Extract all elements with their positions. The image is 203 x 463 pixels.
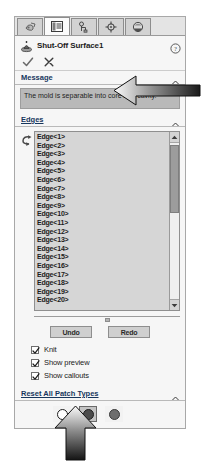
- dimxpert-icon: [105, 21, 117, 33]
- list-item[interactable]: Edge<18>: [37, 279, 169, 288]
- callout-arrow-left: [112, 73, 202, 107]
- list-item[interactable]: Edge<20>: [37, 296, 169, 305]
- page-title: Shut-Off Surface1: [37, 41, 170, 50]
- option-label: Knit: [44, 345, 57, 354]
- scroll-up-icon[interactable]: [170, 132, 179, 143]
- list-item[interactable]: Edge<14>: [37, 245, 169, 254]
- svg-text:?: ?: [174, 45, 177, 52]
- edges-scrollbar[interactable]: [169, 132, 179, 310]
- listbox-resize-grip[interactable]: [34, 316, 180, 323]
- edges-list[interactable]: Edge<1> Edge<2> Edge<3> Edge<4> Edge<5> …: [35, 132, 169, 310]
- list-item[interactable]: Edge<2>: [37, 142, 169, 151]
- list-item[interactable]: Edge<8>: [37, 193, 169, 202]
- patch-type-tangent[interactable]: [105, 406, 123, 422]
- circle-filled-gray-icon: [109, 409, 120, 420]
- checkbox-checked-icon[interactable]: [31, 359, 39, 367]
- tab-appearances[interactable]: [125, 18, 151, 35]
- undo-button[interactable]: Undo: [50, 326, 92, 338]
- list-item[interactable]: Edge<6>: [37, 176, 169, 185]
- edges-options: Knit Show preview Show callouts: [15, 342, 185, 387]
- list-item[interactable]: Edge<13>: [37, 236, 169, 245]
- list-icon: [51, 21, 63, 32]
- edge-select-icon-wrap: [19, 131, 34, 311]
- panel-title-row: Shut-Off Surface1 ?: [15, 36, 185, 54]
- reset-section-title: Reset All Patch Types: [21, 389, 99, 398]
- list-item[interactable]: Edge<12>: [37, 228, 169, 237]
- list-item[interactable]: Edge<1>: [37, 133, 169, 142]
- option-show-preview[interactable]: Show preview: [31, 356, 185, 369]
- list-item[interactable]: Edge<15>: [37, 253, 169, 262]
- undo-redo-row: Undo Redo: [15, 323, 185, 342]
- property-manager-tabstrip: [15, 17, 185, 36]
- option-label: Show callouts: [44, 371, 89, 380]
- option-show-callouts[interactable]: Show callouts: [31, 369, 185, 382]
- scrollbar-track[interactable]: [170, 143, 179, 299]
- list-item[interactable]: Edge<4>: [37, 159, 169, 168]
- list-item[interactable]: Edge<17>: [37, 271, 169, 280]
- redo-button[interactable]: Redo: [108, 326, 150, 338]
- checkbox-checked-icon[interactable]: [31, 346, 39, 354]
- list-item[interactable]: Edge<7>: [37, 185, 169, 194]
- edges-section-header[interactable]: Edges: [15, 113, 185, 127]
- chevron-up-icon[interactable]: [171, 115, 180, 124]
- screenshot-root: Shut-Off Surface1 ? Mes: [0, 0, 203, 463]
- option-knit[interactable]: Knit: [31, 343, 185, 356]
- configuration-icon: [78, 21, 90, 33]
- callout-arrow-up: [52, 404, 100, 462]
- tab-features[interactable]: [17, 18, 43, 35]
- features-icon: [24, 21, 37, 33]
- x-icon[interactable]: [42, 55, 56, 69]
- edge-select-icon: [20, 133, 33, 311]
- patch-types-row: [15, 401, 185, 428]
- edges-listbox[interactable]: Edge<1> Edge<2> Edge<3> Edge<4> Edge<5> …: [34, 131, 180, 311]
- message-section-title: Message: [21, 73, 53, 82]
- resize-grip-dot: [105, 318, 110, 322]
- list-item[interactable]: Edge<10>: [37, 210, 169, 219]
- checkmark-icon[interactable]: [21, 55, 35, 69]
- list-item[interactable]: Edge<11>: [37, 219, 169, 228]
- option-label: Show preview: [44, 358, 90, 367]
- help-icon[interactable]: ?: [170, 40, 181, 51]
- list-item[interactable]: Edge<3>: [37, 150, 169, 159]
- confirm-row: [15, 54, 185, 71]
- reset-section-header[interactable]: Reset All Patch Types: [15, 387, 185, 401]
- list-item[interactable]: Edge<5>: [37, 167, 169, 176]
- list-item[interactable]: Edge<19>: [37, 288, 169, 297]
- scroll-down-icon[interactable]: [170, 299, 179, 310]
- tab-configuration[interactable]: [71, 18, 97, 35]
- edges-body: Edge<1> Edge<2> Edge<3> Edge<4> Edge<5> …: [15, 127, 185, 315]
- shut-off-surface-icon: [20, 39, 33, 52]
- appearances-icon: [132, 21, 144, 33]
- checkbox-checked-icon[interactable]: [31, 372, 39, 380]
- edges-section-title: Edges: [21, 115, 44, 124]
- tab-dimxpert[interactable]: [98, 18, 124, 35]
- list-item[interactable]: Edge<9>: [37, 202, 169, 211]
- chevron-up-icon[interactable]: [171, 389, 180, 398]
- tab-property-manager[interactable]: [44, 17, 70, 35]
- list-item[interactable]: Edge<16>: [37, 262, 169, 271]
- scrollbar-thumb[interactable]: [170, 145, 179, 213]
